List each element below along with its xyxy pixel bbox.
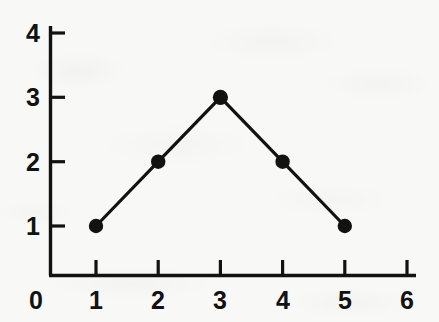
data-point-2	[151, 155, 165, 169]
data-point-3	[213, 90, 228, 105]
data-point-markers	[89, 90, 352, 234]
x-tick-label-0: 0	[29, 288, 43, 313]
data-point-5	[338, 219, 352, 233]
chart-screenshot: 4 3 2 1 0 1 2 3 4 5 6	[0, 0, 439, 322]
x-tick-label-3: 3	[213, 288, 227, 313]
x-tick-label-6: 6	[400, 288, 414, 313]
y-axis-ticks	[51, 33, 65, 226]
line-chart-plot	[0, 0, 439, 322]
x-tick-label-1: 1	[89, 288, 103, 313]
y-tick-label-2: 2	[18, 150, 40, 175]
data-line-series-1	[96, 97, 345, 226]
axis-lines	[49, 26, 416, 276]
x-tick-label-4: 4	[276, 288, 290, 313]
data-point-4	[275, 155, 289, 169]
y-tick-label-1: 1	[18, 214, 40, 239]
x-tick-label-5: 5	[338, 288, 352, 313]
data-point-1	[89, 219, 103, 233]
x-tick-label-2: 2	[151, 288, 165, 313]
x-axis-ticks	[96, 260, 407, 274]
y-tick-label-3: 3	[18, 85, 40, 110]
y-tick-label-4: 4	[18, 21, 40, 46]
